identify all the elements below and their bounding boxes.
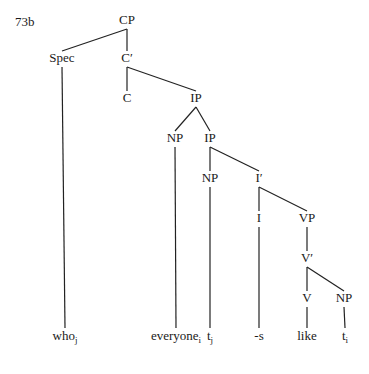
node-ip2: IP xyxy=(204,131,216,145)
leaf-index: i xyxy=(346,335,349,345)
node-ip1: IP xyxy=(190,91,202,105)
node-vbar: V′ xyxy=(301,251,313,265)
edge-np1-everyone xyxy=(175,147,176,328)
leaf-s: -s xyxy=(254,329,263,343)
node-v: V xyxy=(302,291,311,305)
node-cp: CP xyxy=(119,13,135,27)
leaf-index: j xyxy=(211,335,214,345)
node-vp: VP xyxy=(299,211,316,225)
node-i: I xyxy=(257,211,261,225)
edge-vbar-np3 xyxy=(307,267,344,291)
edge-np3-ti xyxy=(344,307,345,328)
leaf-index: i xyxy=(199,335,202,345)
edge-ibar-vp xyxy=(259,187,307,211)
leaf-word: everyone xyxy=(151,328,199,343)
node-c: C xyxy=(123,91,132,105)
node-np3: NP xyxy=(336,291,353,305)
leaf-everyone: everyonei xyxy=(151,329,201,343)
edge-ip2-ibar xyxy=(210,147,259,171)
node-ibar: I′ xyxy=(255,171,262,185)
node-cbar: C′ xyxy=(121,51,133,65)
leaf-ti: ti xyxy=(342,329,348,343)
leaf-word: who xyxy=(53,328,75,343)
node-np2: NP xyxy=(202,171,219,185)
edge-cbar-ip1 xyxy=(127,67,196,91)
leaf-like: like xyxy=(297,329,317,343)
edge-ip1-ip2 xyxy=(196,107,210,131)
leaf-who: whoj xyxy=(53,329,78,343)
leaf-word: -s xyxy=(254,328,263,343)
edge-ip1-np1 xyxy=(175,107,196,131)
node-np1: NP xyxy=(167,131,184,145)
edge-spec-who xyxy=(62,67,65,328)
edge-cp-spec xyxy=(62,29,127,51)
leaf-index: j xyxy=(75,335,78,345)
leaf-tj: tj xyxy=(207,329,213,343)
node-spec: Spec xyxy=(49,51,74,65)
leaf-word: like xyxy=(297,328,317,343)
